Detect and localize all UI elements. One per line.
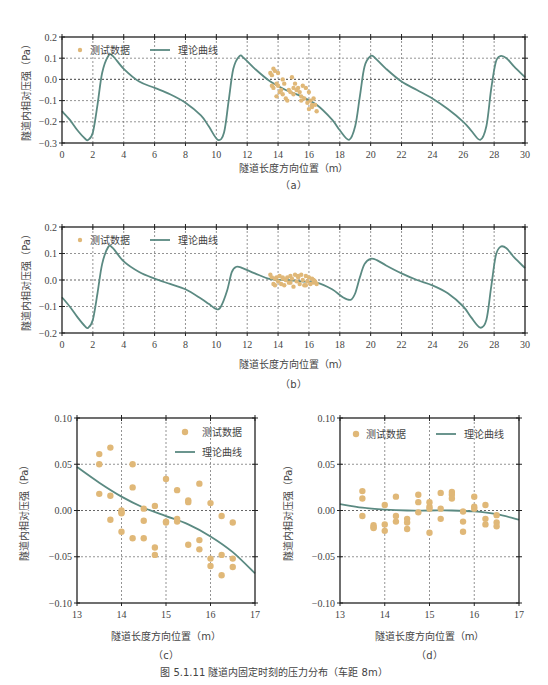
test-data-point (297, 90, 301, 94)
test-data-point (426, 505, 432, 511)
ticks-c: 13141516170.100.050.00−0.05−0.10 (49, 413, 260, 621)
test-data-point (415, 499, 421, 505)
test-data-point (230, 564, 236, 570)
y-tick-label: −0.05 (49, 551, 72, 562)
x-tick-label: 4 (121, 339, 126, 350)
y-tick-label: −0.10 (49, 598, 72, 609)
test-data-point (404, 526, 410, 532)
subfigure-label-c: （c） (153, 650, 179, 661)
x-tick-label: 24 (427, 149, 437, 160)
chart-panel-a: 0246810121416182022242628300.20.10.0−0.1… (20, 32, 530, 192)
test-data-point (449, 495, 455, 501)
test-data-point (270, 73, 274, 77)
test-data-point (310, 105, 314, 109)
test-data-point (107, 493, 113, 499)
test-data-point (304, 86, 308, 90)
test-data-point (471, 505, 477, 511)
test-data-point (129, 484, 135, 490)
test-data-point (288, 280, 292, 284)
legend-marker-test-data (353, 431, 359, 437)
test-data-point (285, 98, 289, 102)
test-data-point (314, 109, 318, 113)
x-tick-label: 12 (242, 339, 252, 350)
test-data-point (279, 88, 283, 92)
test-data-point (290, 75, 294, 79)
test-data-point (196, 546, 202, 552)
test-data-point (274, 94, 278, 98)
legend-label-theory-curve: 理论曲线 (178, 44, 218, 56)
test-data-point (280, 275, 284, 279)
x-tick-label: 14 (273, 149, 283, 160)
y-tick-label: 0.2 (45, 32, 58, 43)
test-data-point (382, 521, 388, 527)
test-data-point (393, 518, 399, 524)
legend-marker-test-data (182, 429, 188, 435)
test-data-point (107, 444, 113, 450)
test-data-point (482, 502, 488, 508)
x-tick-label: 10 (211, 339, 221, 350)
x-tick-label: 22 (397, 339, 407, 350)
subfigure-label-d: （d） (416, 650, 442, 661)
ticks-d: 13141516170.100.050.00−0.05−0.10 (312, 413, 524, 621)
test-data-point (296, 274, 300, 278)
test-data-point (460, 518, 466, 524)
test-data-point (218, 552, 224, 558)
test-data-point (482, 521, 488, 527)
test-data-point (118, 529, 124, 535)
test-data-point (291, 284, 295, 288)
y-tick-label: −0.1 (39, 301, 57, 312)
legend-label-theory-curve: 理论曲线 (464, 428, 504, 440)
x-axis-label-d: 隧道长度方向位置（m） (375, 630, 485, 642)
x-tick-label: 17 (250, 609, 260, 620)
test-data-point (196, 480, 202, 486)
x-axis-label-c: 隧道长度方向位置（m） (111, 630, 221, 642)
x-tick-label: 28 (489, 339, 499, 350)
x-tick-label: 16 (304, 149, 314, 160)
subfigure-label-b: （b） (280, 379, 306, 390)
test-data-point (129, 461, 135, 467)
test-data-point (359, 488, 365, 494)
x-tick-label: 0 (60, 339, 65, 350)
curves-a (62, 54, 525, 140)
test-data-point (282, 283, 286, 287)
y-tick-label: 0.05 (318, 459, 336, 470)
test-data-point (293, 81, 297, 85)
legend-marker-test-data (78, 48, 82, 52)
x-tick-label: 0 (60, 149, 65, 160)
x-tick-label: 22 (397, 149, 407, 160)
x-tick-label: 8 (183, 339, 188, 350)
test-data-point (311, 278, 315, 282)
y-tick-label: 0.1 (45, 53, 58, 64)
test-data-point (271, 86, 275, 90)
x-tick-label: 13 (335, 609, 345, 620)
y-tick-label: −0.3 (39, 138, 57, 149)
y-tick-label: 0.10 (55, 413, 73, 424)
x-tick-label: 15 (161, 609, 171, 620)
test-data-point (118, 509, 124, 515)
theory-curve-a (62, 54, 525, 140)
y-tick-label: −0.2 (39, 116, 57, 127)
y-axis-label-c: 隧道内相对压强（Pa） (18, 460, 30, 562)
test-data-point (152, 544, 158, 550)
test-data-point (107, 517, 113, 523)
y-tick-label: −0.1 (39, 95, 57, 106)
test-data-point (276, 71, 280, 75)
test-data-point (493, 512, 499, 518)
x-tick-label: 13 (72, 609, 82, 620)
x-tick-label: 20 (366, 149, 376, 160)
y-tick-label: 0.2 (45, 222, 58, 233)
test-data-point (207, 563, 213, 569)
x-tick-label: 2 (90, 149, 95, 160)
legend-d: 测试数据理论曲线 (353, 428, 504, 440)
test-data-point (382, 528, 388, 534)
figure-caption: 图 5.1.11 隧道内固定时刻的压力分布（车距 8m） (160, 666, 387, 678)
y-tick-label: −0.2 (39, 328, 57, 339)
x-axis-label-a: 隧道长度方向位置（m） (239, 162, 349, 174)
test-data-point (152, 503, 158, 509)
test-data-point (296, 86, 300, 90)
x-tick-label: 18 (335, 339, 345, 350)
test-data-point (359, 495, 365, 501)
test-data-point (301, 278, 305, 282)
test-data-point (393, 513, 399, 519)
x-tick-label: 18 (335, 149, 345, 160)
